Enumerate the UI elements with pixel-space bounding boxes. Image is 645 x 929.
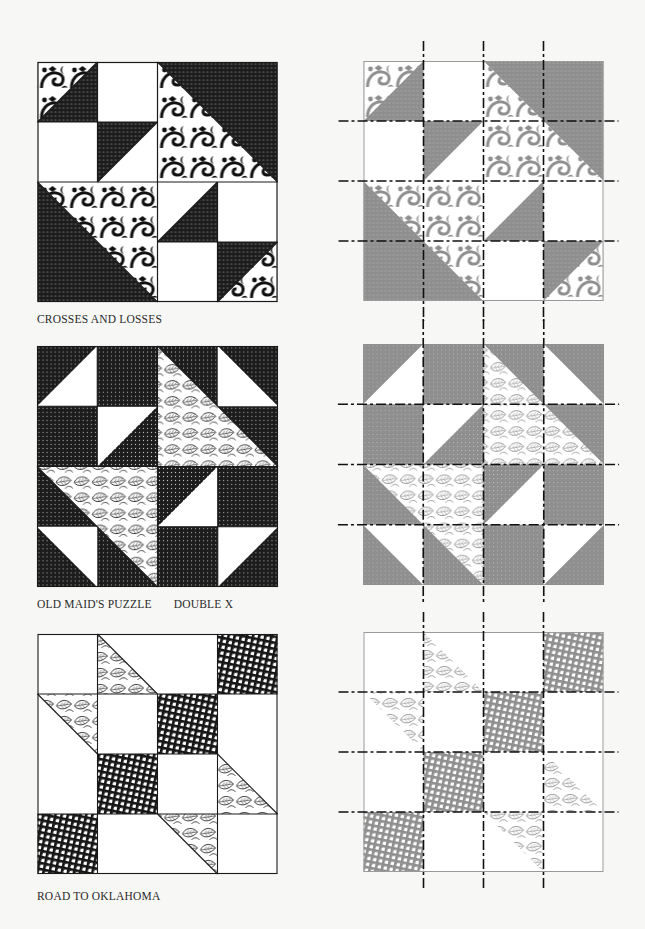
caption-crosses-and-losses: CROSSES AND LOSSES (37, 313, 162, 325)
old-maids-puzzle-cutting-diagram (363, 344, 604, 585)
road-to-oklahoma-cutting-diagram (363, 632, 604, 872)
old-maids-puzzle-block (37, 346, 278, 587)
crosses-and-losses-cutting-diagram (363, 61, 604, 301)
road-to-oklahoma-cutting-illustration (363, 632, 604, 872)
crosses-and-losses-block (37, 62, 278, 302)
caption-old-maids-puzzle: OLD MAID'S PUZZLEDOUBLE X (37, 598, 233, 610)
caption-text-primary: OLD MAID'S PUZZLE (37, 598, 152, 610)
crosses-and-losses-cutting-illustration (363, 61, 604, 301)
old-maids-puzzle-cutting-illustration (363, 344, 604, 585)
caption-text-secondary: DOUBLE X (174, 598, 233, 610)
road-to-oklahoma-illustration (37, 634, 278, 874)
crosses-and-losses-illustration (37, 62, 278, 302)
caption-text: ROAD TO OKLAHOMA (37, 890, 161, 902)
caption-text: CROSSES AND LOSSES (37, 313, 162, 325)
caption-road-to-oklahoma: ROAD TO OKLAHOMA (37, 890, 161, 902)
old-maids-puzzle-illustration (37, 346, 278, 587)
road-to-oklahoma-block (37, 634, 278, 874)
